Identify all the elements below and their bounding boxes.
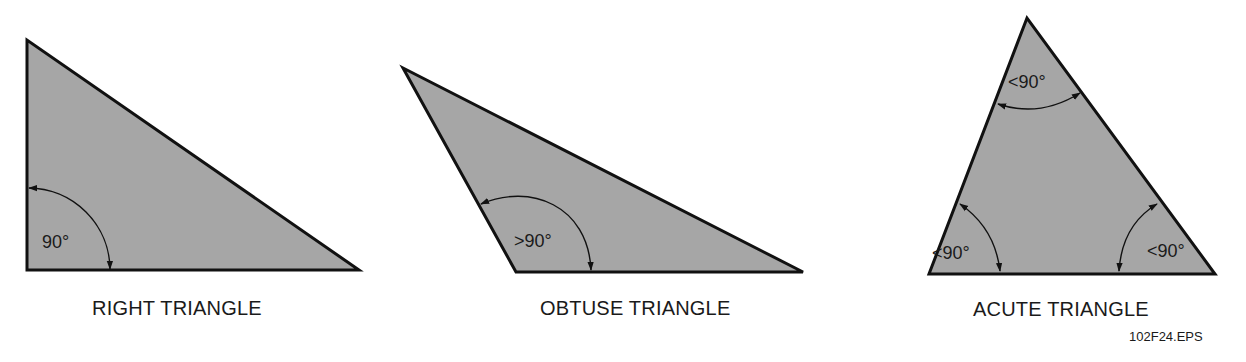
right-triangle-caption: RIGHT TRIANGLE [92, 297, 262, 320]
acute-triangle: <90° <90° <90° [929, 18, 1215, 274]
acute-top-angle-label: <90° [1008, 72, 1046, 92]
acute-triangle-caption: ACUTE TRIANGLE [973, 298, 1149, 321]
obtuse-triangle: >90° [403, 68, 803, 272]
right-angle-label: 90° [42, 232, 69, 252]
acute-right-angle-label: <90° [1147, 241, 1185, 261]
acute-left-angle-label: <90° [932, 243, 970, 263]
right-triangle: 90° [27, 40, 359, 270]
figure-id: 102F24.EPS [1129, 329, 1203, 344]
obtuse-triangle-caption: OBTUSE TRIANGLE [540, 297, 730, 320]
obtuse-angle-label: >90° [514, 231, 552, 251]
